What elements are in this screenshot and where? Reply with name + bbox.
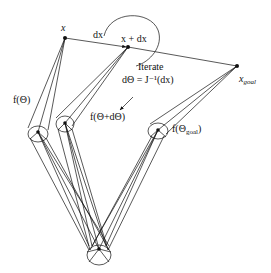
label-x-plus-dx: x + dx: [121, 34, 147, 44]
label-iterate-equation: dΘ = J⁻¹(dx): [122, 75, 174, 85]
label-f-theta: f(Θ): [13, 95, 30, 105]
label-f-theta-goal: f(Θgoal): [172, 124, 201, 136]
joint-theta: [36, 130, 40, 134]
label-x: x: [61, 23, 65, 33]
joint-theta-goal: [156, 128, 160, 132]
label-x-goal: xgoal: [239, 74, 256, 86]
joint-base: [97, 247, 101, 251]
point-x-goal: [235, 64, 239, 68]
point-x: [63, 36, 67, 40]
point-x-plus-dx: [126, 45, 130, 49]
arm-config-theta-goal: [90, 66, 237, 250]
iterate-result-arrow: [120, 97, 133, 110]
joint-theta-dtheta: [63, 121, 67, 125]
label-f-theta-dtheta: f(Θ+dΘ): [90, 112, 125, 122]
label-dx: dx: [93, 30, 103, 40]
label-iterate: Iterate: [138, 62, 164, 72]
